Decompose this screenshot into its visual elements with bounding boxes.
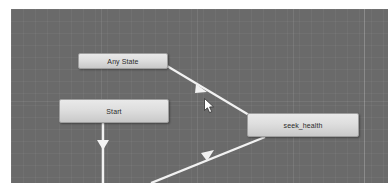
transition-start-down[interactable] (97, 123, 109, 183)
state-machine-canvas[interactable]: Any State Start seek_health (11, 9, 388, 183)
transition-seek-health-down-left[interactable] (151, 137, 265, 183)
state-node-label: Any State (107, 57, 138, 64)
state-node-label: seek_health (284, 121, 323, 128)
state-node-label: Start (106, 107, 121, 114)
animator-window: Any State Start seek_health (0, 0, 392, 192)
transition-any-state-to-seek-health[interactable] (157, 60, 249, 115)
state-node-seek-health[interactable]: seek_health (247, 113, 359, 137)
state-node-any-state[interactable]: Any State (78, 53, 168, 69)
state-node-start[interactable]: Start (59, 99, 169, 123)
transition-edges-layer (11, 9, 388, 183)
